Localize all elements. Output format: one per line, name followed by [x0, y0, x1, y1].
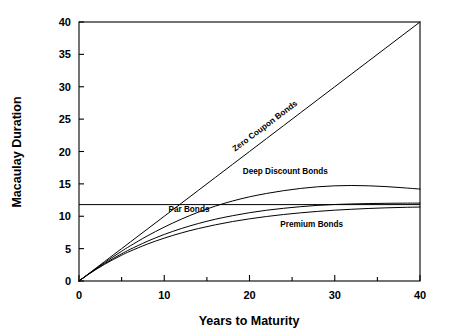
x-tick-label: 30: [329, 289, 341, 301]
x-tick-label: 0: [76, 289, 82, 301]
y-tick-label: 15: [59, 178, 71, 190]
y-tick-label: 35: [59, 48, 71, 60]
macaulay-duration-chart: 0510152025303540 010203040 Zero Coupon B…: [0, 0, 459, 335]
x-tick-label: 40: [414, 289, 426, 301]
chart-container: 0510152025303540 010203040 Zero Coupon B…: [0, 0, 459, 335]
premium-bonds-label: Premium Bonds: [280, 220, 343, 229]
x-tick-label: 20: [243, 289, 255, 301]
y-tick-label: 25: [59, 113, 71, 125]
y-tick-label: 0: [65, 275, 71, 287]
x-axis-title: Years to Maturity: [199, 314, 300, 328]
x-tick-label: 10: [158, 289, 170, 301]
par-bonds-label: Par Bonds: [168, 205, 209, 214]
deep-discount-label: Deep Discount Bonds: [243, 167, 329, 176]
y-tick-label: 40: [59, 16, 71, 28]
y-tick-label: 10: [59, 210, 71, 222]
y-tick-label: 5: [65, 243, 71, 255]
y-tick-label: 20: [59, 146, 71, 158]
y-axis-title: Macaulay Duration: [10, 96, 24, 207]
y-tick-label: 30: [59, 81, 71, 93]
